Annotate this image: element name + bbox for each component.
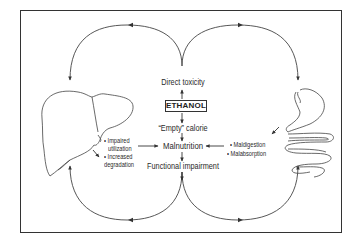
arc-bottom-right (182, 166, 298, 220)
empty-calorie-label: “Empty” calorie (155, 124, 212, 133)
liver-effect-utilization: utilization (108, 145, 132, 153)
arc-top-left (70, 25, 182, 80)
stomach-intestine-icon (285, 89, 333, 177)
direct-toxicity-label: Direct toxicity (155, 78, 212, 87)
arc-bottom-left (70, 166, 182, 220)
diagram-graphics (0, 0, 359, 243)
arc-top-right (182, 25, 298, 80)
malnutrition-label: Malnutrition (159, 142, 207, 151)
liver-effect-increased: • Increased (104, 153, 132, 161)
liver-effect-degradation: degradation (104, 161, 134, 169)
liver-effect-impaired: • Impaired (104, 137, 130, 145)
gut-effect-maldigestion: • Maldigestion (230, 141, 265, 149)
functional-impairment-label: Functional impairment (142, 162, 225, 171)
gut-effect-malabsorption: • Malabsorption (227, 150, 266, 158)
ethanol-box: ETHANOL (165, 100, 207, 112)
